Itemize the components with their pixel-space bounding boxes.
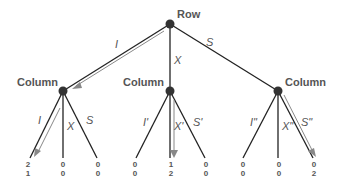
payoff-row: 0 (133, 160, 138, 169)
player-label-col2: Column (123, 76, 164, 88)
action-label-col3-S: S" (301, 116, 313, 128)
action-label-S: S (206, 36, 214, 48)
payoff-row: 1 (169, 160, 174, 169)
payoff-row: 0 (204, 160, 209, 169)
branch-col2-I (136, 91, 170, 158)
action-label-col3-I: I" (250, 116, 258, 128)
payoff-col: 0 (277, 169, 282, 178)
payoff-col: 0 (204, 169, 209, 178)
node-col1 (59, 87, 68, 96)
arrowhead-icon (34, 148, 41, 157)
branch-col3-I (243, 91, 278, 158)
action-label-col1-X: X (66, 120, 75, 132)
branch-S (170, 24, 278, 91)
node-col2 (166, 87, 175, 96)
action-label-col2-S: S' (193, 116, 203, 128)
action-label-col1-S: S (86, 114, 94, 126)
game-tree-diagram: Row Column Column Column I X S I X S I' … (0, 0, 340, 182)
payoff-col: 0 (133, 169, 138, 178)
action-label-col2-X: X' (173, 120, 184, 132)
payoff-col: 0 (241, 169, 246, 178)
payoff-col: 2 (312, 169, 317, 178)
payoff-col: 0 (96, 169, 101, 178)
payoff-row: 0 (277, 160, 282, 169)
branch-col1-I (30, 91, 63, 158)
player-label-col1: Column (17, 76, 58, 88)
payoff-row: 0 (96, 160, 101, 169)
player-label-col3: Column (285, 76, 326, 88)
payoffs: 2 1 0 0 0 0 0 0 1 2 0 0 0 0 0 0 0 2 (26, 160, 317, 178)
action-label-col3-X: X" (281, 120, 294, 132)
node-col3 (274, 87, 283, 96)
payoff-row: 0 (241, 160, 246, 169)
payoff-row: 2 (26, 160, 31, 169)
node-root (166, 20, 175, 29)
action-label-X: X (173, 54, 182, 66)
action-label-col1-I: I (38, 114, 41, 126)
action-label-col2-I: I' (143, 116, 149, 128)
equilibrium-arrow-col1 (38, 108, 60, 152)
payoff-row: 0 (61, 160, 66, 169)
player-label-row: Row (177, 8, 201, 20)
action-label-I: I (115, 38, 118, 50)
payoff-row: 0 (312, 160, 317, 169)
payoff-col: 0 (61, 169, 66, 178)
arrowhead-icon (170, 150, 178, 158)
payoff-col: 1 (26, 169, 31, 178)
payoff-col: 2 (169, 169, 174, 178)
